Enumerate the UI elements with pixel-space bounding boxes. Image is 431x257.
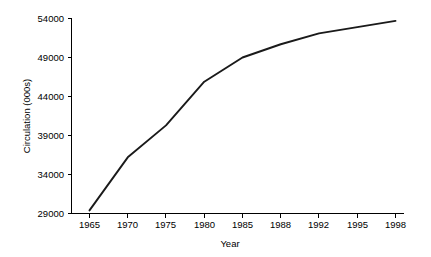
y-tick-label: 44000 [38,91,64,102]
x-tick-labels: 1965 1970 1975 1980 1985 1988 1992 1995 … [79,219,406,230]
x-tick-label: 1980 [194,219,215,230]
chart-canvas: 54000 49000 44000 39000 34000 29000 1965… [0,0,431,257]
x-tick-label: 1995 [347,219,368,230]
y-tick-label: 54000 [38,13,64,24]
x-tick-label: 1992 [308,219,329,230]
x-tick-label: 1988 [270,219,291,230]
x-tick-label: 1985 [232,219,253,230]
line-chart: 54000 49000 44000 39000 34000 29000 1965… [0,0,431,257]
x-tick-label: 1965 [79,219,100,230]
y-axis-title: Circulation (000s) [21,79,32,153]
x-tick-label: 1975 [155,219,176,230]
x-axis-title: Year [220,238,239,249]
y-tick-label: 49000 [38,52,64,63]
y-tick-label: 29000 [38,208,64,219]
y-tick-label: 39000 [38,130,64,141]
x-tick-label: 1970 [117,219,138,230]
y-tick-label: 34000 [38,169,64,180]
x-tick-label: 1998 [385,219,406,230]
